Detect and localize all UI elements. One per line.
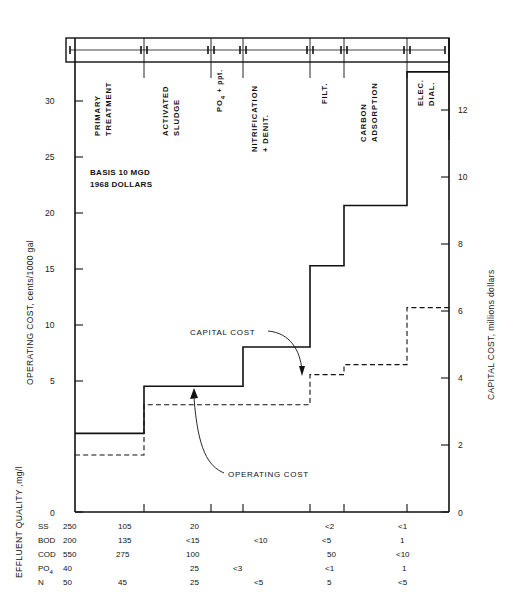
right-tick-2: 2 — [458, 440, 463, 450]
right-tick-6: 6 — [458, 306, 463, 316]
table-cell: 1 — [402, 564, 407, 573]
basis-note-line1: BASIS 10 MGD — [90, 168, 150, 177]
table-cell: <1 — [325, 564, 335, 573]
cost-comparison-chart: PRIMARY TREATMENT ACTIVATED SLUDGE PO4 +… — [0, 0, 522, 613]
right-tick-0: 0 — [458, 508, 463, 518]
table-cell: <1 — [398, 522, 408, 531]
table-cell: 5 — [327, 578, 332, 587]
table-cell: <10 — [254, 536, 268, 545]
stage-label-elec-dial-line1: ELEC. — [416, 79, 425, 106]
stage-labels: PRIMARY TREATMENT ACTIVATED SLUDGE PO4 +… — [93, 69, 436, 152]
table-row-header: BOD — [38, 536, 56, 545]
table-cell: 275 — [116, 550, 130, 559]
table-row-header: COD — [38, 550, 56, 559]
table-cell: 135 — [118, 536, 132, 545]
table-cell: 40 — [63, 564, 72, 573]
stage-label-activated-sludge-line1: ACTIVATED — [161, 86, 170, 136]
stage-label-nitrification-line2: + DENIT. — [261, 114, 270, 152]
table-cell: 50 — [327, 550, 336, 559]
stage-label-filt: FILT. — [320, 83, 329, 104]
operating-cost-callout: OPERATING COST — [190, 388, 309, 479]
table-cell: <2 — [325, 522, 335, 531]
table-cell: <5 — [322, 536, 332, 545]
table-cell: 200 — [63, 536, 77, 545]
stage-label-po4-main: PO — [215, 99, 224, 112]
plot-frame — [75, 38, 449, 512]
table-cell: 1 — [400, 536, 405, 545]
stage-label-po4-ppt: + ppt. — [216, 69, 224, 95]
table-row: SS 250 105 20 <2 <1 — [38, 522, 408, 531]
table-row-header: N — [38, 578, 44, 587]
table-cell: <5 — [398, 578, 408, 587]
left-tick-10: 10 — [45, 320, 55, 330]
left-axis-title: OPERATING COST, cents/1000 gal — [25, 240, 35, 385]
stage-label-primary-treatment-line2: TREATMENT — [104, 82, 113, 136]
table-row: N 50 45 25 <5 5 <5 — [38, 578, 408, 587]
table-row-header: PO4 — [38, 564, 54, 575]
right-tick-8: 8 — [458, 239, 463, 249]
table-row: BOD 200 135 <15 <10 <5 1 — [38, 536, 405, 545]
right-tick-10: 10 — [458, 172, 468, 182]
stage-label-carbon-line1: CARBON — [359, 103, 368, 142]
right-tick-4: 4 — [458, 373, 463, 383]
table-cell: 20 — [190, 522, 199, 531]
table-cell: 550 — [63, 550, 77, 559]
right-tick-12: 12 — [458, 105, 468, 115]
table-row: PO4 40 25 <3 <1 1 — [38, 564, 407, 575]
operating-cost-leader — [194, 398, 224, 473]
operating-cost-arrowhead — [190, 388, 198, 399]
svg-text:PO4 + ppt.: PO4 + ppt. — [215, 69, 226, 112]
right-axis-title: CAPITAL COST, millions dollars — [486, 270, 496, 400]
table-cell: 250 — [63, 522, 77, 531]
left-tick-5: 5 — [50, 376, 55, 386]
table-row-header: SS — [38, 522, 49, 531]
table-cell: 50 — [63, 578, 72, 587]
table-cell: 100 — [186, 550, 200, 559]
capital-cost-callout-label: CAPITAL COST — [190, 328, 255, 337]
bottom-axis-ticks — [144, 504, 407, 512]
stage-label-nitrification-line1: NITRIFICATION — [250, 85, 259, 152]
left-tick-30: 30 — [45, 96, 55, 106]
stage-label-activated-sludge-line2: SLUDGE — [172, 99, 181, 136]
table-cell: 25 — [190, 578, 199, 587]
table-cell: <15 — [186, 536, 200, 545]
basis-note: BASIS 10 MGD 1968 DOLLARS — [90, 168, 153, 189]
capital-cost-leader — [268, 331, 302, 370]
stage-label-elec-dial-line2: DIAL. — [427, 82, 436, 106]
table-cell: 25 — [190, 564, 199, 573]
table-cell: 45 — [118, 578, 127, 587]
left-tick-25: 25 — [45, 152, 55, 162]
table-cell: <5 — [254, 578, 264, 587]
basis-note-line2: 1968 DOLLARS — [90, 180, 153, 189]
capital-cost-arrowhead — [299, 366, 305, 376]
stage-label-carbon-line2: ADSORPTION — [370, 82, 379, 142]
effluent-quality-table: EFFLUENT QUALITY ,mg/l SS 250 105 20 <2 … — [14, 466, 410, 587]
figure-root: PRIMARY TREATMENT ACTIVATED SLUDGE PO4 +… — [0, 0, 522, 613]
stage-label-primary-treatment-line1: PRIMARY — [93, 95, 102, 136]
table-cell: 105 — [118, 522, 132, 531]
effluent-quality-side-label: EFFLUENT QUALITY ,mg/l — [14, 466, 24, 578]
left-tick-15: 15 — [45, 264, 55, 274]
left-tick-20: 20 — [45, 208, 55, 218]
table-cell: <3 — [233, 564, 243, 573]
left-tick-0: 0 — [50, 508, 55, 518]
capital-cost-callout: CAPITAL COST — [190, 328, 305, 376]
table-row: COD 550 275 100 50 <10 — [38, 550, 410, 559]
stage-label-po4-ppt: PO4 + ppt. — [215, 69, 226, 112]
operating-cost-callout-label: OPERATING COST — [228, 470, 309, 479]
table-cell: <10 — [396, 550, 410, 559]
